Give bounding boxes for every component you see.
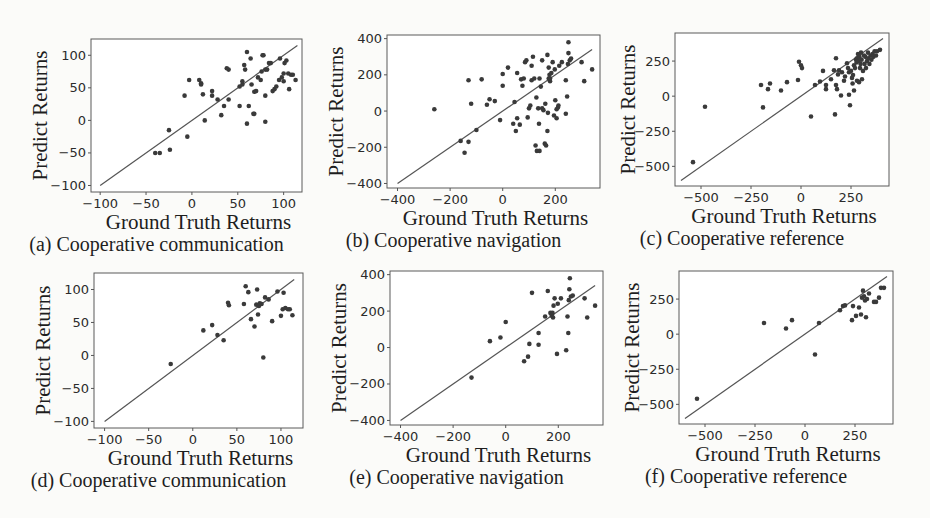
- scatter-point: [485, 102, 490, 107]
- scatter-point: [550, 60, 555, 65]
- scatter-point: [566, 40, 571, 45]
- scatter-point: [555, 352, 560, 357]
- scatter-point: [809, 114, 814, 119]
- scatter-point: [526, 354, 531, 359]
- scatter-point: [555, 302, 560, 307]
- x-tick-label: 250: [843, 428, 868, 443]
- panel-d: −100−50050100−100−50050100Ground Truth R…: [31, 273, 303, 492]
- x-tick-label: −500: [687, 428, 723, 443]
- scatter-point: [529, 63, 534, 68]
- scatter-point: [845, 61, 850, 66]
- scatter-point: [500, 72, 505, 77]
- scatter-point: [533, 143, 538, 148]
- scatter-point: [524, 58, 529, 63]
- scatter-point: [832, 68, 837, 73]
- panel-e: −400−2000200−400−2000200400Ground Truth …: [327, 267, 603, 489]
- scatter-point: [874, 53, 879, 58]
- scatter-point: [527, 342, 532, 347]
- scatter-point: [269, 61, 274, 66]
- x-tick-label: 50: [229, 432, 246, 447]
- scatter-point: [185, 134, 190, 139]
- scatter-point: [762, 321, 767, 326]
- scatter-point: [836, 72, 841, 77]
- y-tick-label: 250: [645, 54, 670, 69]
- scatter-point: [462, 150, 467, 155]
- scatter-point: [579, 60, 584, 65]
- x-tick-label: 0: [188, 196, 196, 211]
- scatter-point: [249, 317, 254, 322]
- scatter-point: [222, 104, 227, 109]
- x-tick-label: 200: [546, 429, 571, 444]
- scatter-point: [515, 71, 520, 76]
- scatter-point: [210, 93, 215, 98]
- y-tick-label: 50: [69, 80, 86, 95]
- x-tick-label: 0: [797, 190, 805, 205]
- x-tick-label: −100: [82, 196, 118, 211]
- scatter-point: [543, 102, 548, 107]
- scatter-point: [766, 87, 771, 92]
- x-tick-label: −400: [383, 429, 419, 444]
- scatter-point: [759, 83, 764, 88]
- scatter-point: [545, 53, 550, 58]
- x-axis-label: Ground Truth Returns: [403, 206, 589, 230]
- scatter-point: [290, 313, 295, 318]
- scatter-point: [859, 312, 864, 317]
- scatter-point: [498, 118, 503, 123]
- y-axis-label: Predict Returns: [31, 285, 55, 415]
- scatter-point: [168, 147, 173, 152]
- scatter-point: [474, 128, 479, 133]
- panel-f: −500−2500250−500−2500250Ground Truth Ret…: [620, 271, 893, 488]
- scatter-point: [843, 74, 848, 79]
- scatter-point: [520, 83, 525, 88]
- scatter-point: [479, 77, 484, 82]
- scatter-point: [261, 53, 266, 58]
- scatter-point: [560, 60, 565, 65]
- scatter-point: [858, 62, 863, 67]
- panel-a: −100−50050100−100−50050100Ground Truth R…: [28, 39, 302, 256]
- scatter-point: [249, 82, 254, 87]
- scatter-point: [847, 92, 852, 97]
- scatter-point: [567, 287, 572, 292]
- scatter-point: [500, 83, 505, 88]
- scatter-point: [512, 100, 517, 105]
- subfigure-caption: (d) Cooperative communication: [31, 469, 286, 492]
- y-tick-label: 100: [64, 282, 89, 297]
- scatter-point: [531, 54, 536, 59]
- scatter-point: [545, 289, 550, 294]
- scatter-point: [255, 287, 260, 292]
- scatter-point: [545, 129, 550, 134]
- y-tick-label: 50: [72, 315, 89, 330]
- scatter-point: [882, 286, 887, 291]
- scatter-point: [537, 76, 542, 81]
- scatter-point: [243, 284, 248, 289]
- scatter-point: [851, 304, 856, 309]
- scatter-point: [503, 320, 508, 325]
- scatter-point: [554, 116, 559, 121]
- y-tick-label: 200: [360, 304, 385, 319]
- scatter-point: [245, 50, 250, 55]
- scatter-point: [242, 302, 247, 307]
- x-tick-label: −250: [733, 190, 769, 205]
- scatter-point: [840, 70, 845, 75]
- scatter-point: [248, 56, 253, 61]
- scatter-point: [842, 78, 847, 83]
- scatter-point: [867, 62, 872, 67]
- scatter-point: [874, 300, 879, 305]
- scatter-point: [201, 328, 206, 333]
- plot-frame: [387, 35, 600, 188]
- scatter-point: [834, 56, 839, 61]
- scatter-point: [254, 89, 259, 94]
- scatter-point: [843, 303, 848, 308]
- y-axis-label: Predict Returns: [620, 282, 644, 412]
- scatter-point: [275, 289, 280, 294]
- scatter-point: [582, 79, 587, 84]
- scatter-point: [539, 84, 544, 89]
- scatter-point: [293, 78, 298, 83]
- y-tick-label: 0: [81, 348, 89, 363]
- scatter-point: [210, 323, 215, 328]
- scatter-point: [536, 106, 541, 111]
- scatter-point: [245, 121, 250, 126]
- y-tick-label: −200: [346, 140, 382, 155]
- scatter-point: [469, 102, 474, 107]
- scatter-point: [201, 92, 206, 97]
